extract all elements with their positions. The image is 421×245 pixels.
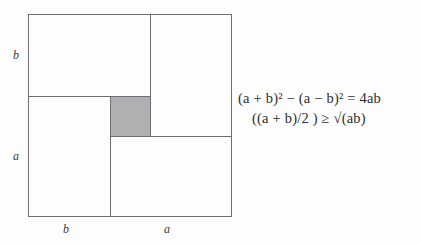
shaded-center-square [110,96,151,137]
dimension-label-bottom-left: b [63,223,69,235]
dimension-label-left-bottom: a [13,150,19,162]
divider-top-vertical [150,14,151,97]
dimension-label-bottom-right: a [164,223,170,235]
equation-identity: (a + b)² − (a − b)² = 4ab [238,88,418,108]
divider-left-horizontal [28,96,111,97]
dimension-label-left-top: b [13,49,19,61]
equation-amgm-inequality: ((a + b)/2 ) ≥ √(ab) [238,108,418,128]
equation-block: (a + b)² − (a − b)² = 4ab ((a + b)/2 ) ≥… [238,88,418,128]
divider-right-horizontal [150,136,232,137]
divider-center-vertical [150,96,151,137]
figure-page: b a b a (a + b)² − (a − b)² = 4ab ((a + … [0,0,421,245]
divider-bottom-vertical [110,136,111,217]
